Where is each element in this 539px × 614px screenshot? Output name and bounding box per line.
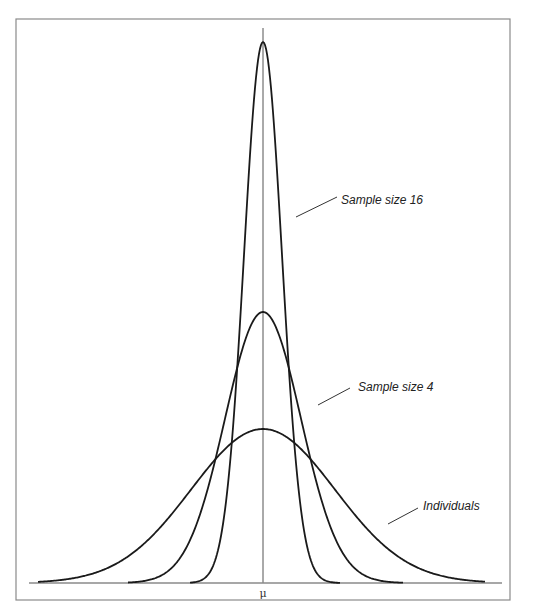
mean-tick-label: μ (259, 587, 266, 600)
leader-sample-size-16 (296, 197, 337, 217)
label-sample-size-16: Sample size 16 (341, 193, 423, 207)
label-sample-size-4: Sample size 4 (358, 380, 434, 394)
leader-sample-size-4 (318, 388, 350, 405)
sampling-distribution-chart: Sample size 16 Sample size 4 Individuals… (0, 0, 539, 614)
curve-individuals (38, 429, 485, 582)
leader-individuals (388, 508, 418, 524)
curve-sample-size-4 (128, 312, 403, 583)
label-individuals: Individuals (423, 499, 480, 513)
